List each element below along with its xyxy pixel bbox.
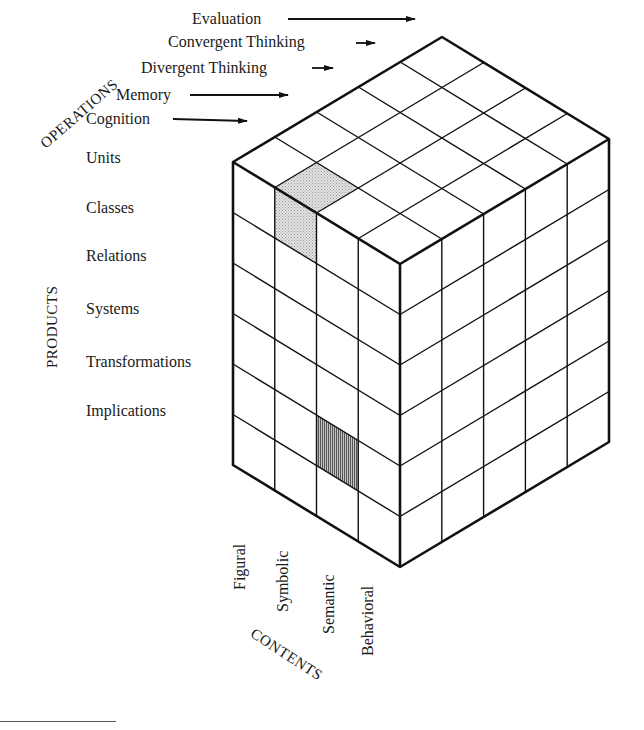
product-label-units: Units [86,150,121,166]
grid-line [400,240,609,365]
operation-label-divergent-thinking: Divergent Thinking [141,60,267,76]
grid-line [400,341,609,466]
products-axis-title: PRODUCTS [45,286,60,368]
product-label-transformations: Transformations [86,354,191,370]
figure: Evaluation Convergent Thinking Divergent… [0,0,644,730]
grid-line [317,88,526,213]
operation-label-evaluation: Evaluation [192,11,261,27]
content-label-semantic: Semantic [321,574,337,634]
operation-label-convergent-thinking: Convergent Thinking [168,34,305,50]
highlighted-cell-front [317,415,359,491]
footnote-divider [0,721,116,722]
product-label-relations: Relations [86,248,146,264]
content-label-figural: Figural [232,544,248,590]
operation-label-cognition: Cognition [86,111,150,127]
product-label-implications: Implications [86,403,166,419]
product-label-classes: Classes [86,200,134,216]
content-label-behavioral: Behavioral [360,586,376,656]
cube-edge [400,139,609,264]
content-label-symbolic: Symbolic [275,551,291,612]
grid-line [400,291,609,416]
grid-line [400,190,609,315]
grid-line [400,392,609,517]
grid-line [358,114,567,239]
operation-arrow [173,119,247,121]
product-label-systems: Systems [86,301,139,317]
grid-line [275,63,484,188]
operation-label-memory: Memory [116,87,171,103]
